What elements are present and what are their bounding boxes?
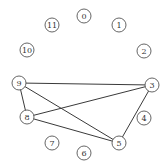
node-7: 7	[45, 136, 59, 150]
node-label: 5	[116, 139, 121, 148]
node-2: 2	[137, 44, 151, 58]
node-4: 4	[137, 111, 151, 125]
node-6: 6	[77, 146, 91, 160]
node-10: 10	[20, 43, 34, 57]
node-label: 3	[149, 81, 154, 90]
node-label: 2	[141, 47, 146, 56]
node-1: 1	[112, 18, 126, 32]
edge-8-5	[27, 117, 119, 143]
node-label: 0	[81, 12, 86, 21]
node-label: 1	[116, 21, 121, 30]
node-label: 4	[141, 114, 146, 123]
node-label: 6	[81, 149, 86, 158]
node-9: 9	[12, 76, 26, 90]
node-0: 0	[77, 9, 91, 23]
edge-9-5	[19, 83, 119, 143]
node-label: 8	[24, 113, 29, 122]
node-label: 7	[49, 139, 54, 148]
graph-diagram: 01234567891011	[0, 0, 168, 168]
node-11: 11	[45, 18, 59, 32]
node-3: 3	[145, 78, 159, 92]
node-5: 5	[112, 136, 126, 150]
edges-layer	[19, 83, 152, 143]
node-label: 10	[22, 46, 32, 55]
node-label: 9	[16, 79, 21, 88]
node-8: 8	[20, 110, 34, 124]
edge-9-3	[19, 83, 152, 85]
edge-8-3	[27, 85, 152, 117]
node-label: 11	[47, 21, 57, 30]
